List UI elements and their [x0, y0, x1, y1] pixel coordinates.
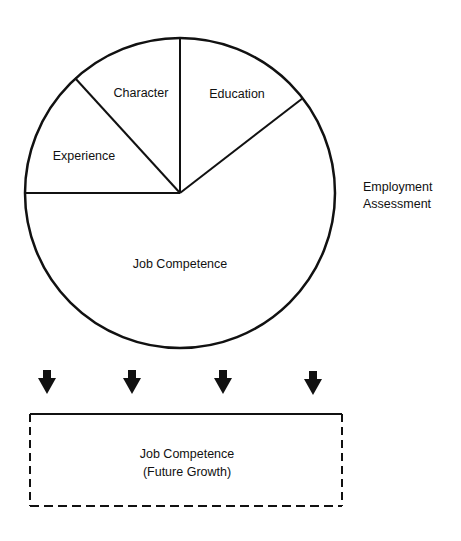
box-label-line1: Job Competence — [140, 447, 235, 461]
slice-label-experience: Experience — [53, 149, 116, 163]
down-arrow-icon — [123, 370, 141, 394]
down-arrow-icon — [38, 370, 56, 394]
down-arrow-icon — [304, 371, 322, 395]
slice-label-character: Character — [114, 86, 169, 100]
pie-chart: Character Education Experience Job Compe… — [25, 38, 335, 348]
side-label-line1: Employment — [363, 180, 433, 194]
employment-assessment-diagram: Character Education Experience Job Compe… — [0, 0, 461, 541]
side-label: Employment Assessment — [363, 180, 433, 211]
arrows-row — [38, 370, 322, 395]
slice-label-job-competence: Job Competence — [133, 257, 228, 271]
slice-label-education: Education — [209, 87, 265, 101]
future-growth-box: Job Competence (Future Growth) — [30, 414, 342, 506]
down-arrow-icon — [214, 370, 232, 394]
box-label-line2: (Future Growth) — [143, 465, 231, 479]
side-label-line2: Assessment — [363, 197, 432, 211]
